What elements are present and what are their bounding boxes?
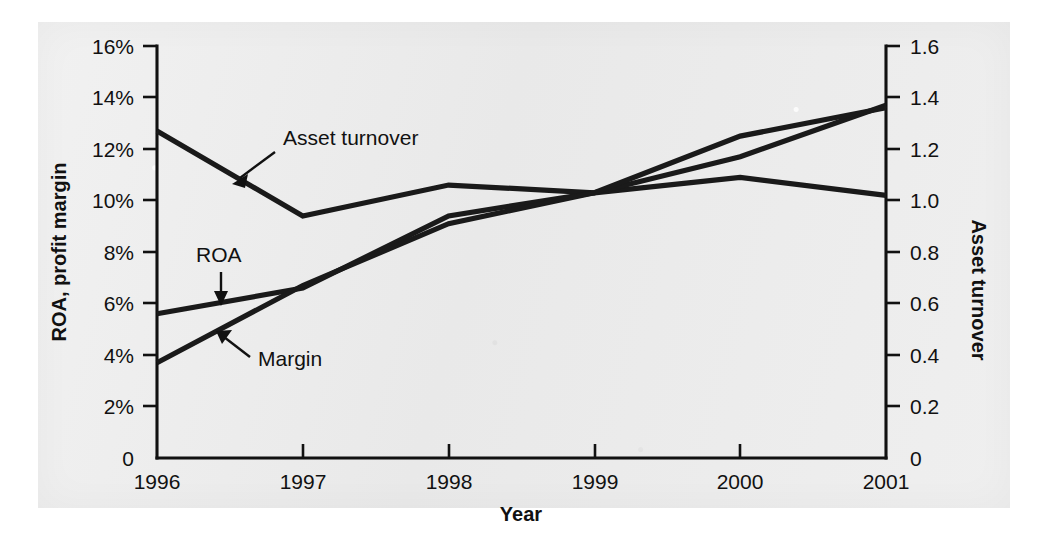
left-tick-label-6: 6% [104, 292, 134, 315]
annotation-arrow-margin [224, 337, 250, 357]
series-group [157, 105, 886, 363]
x-tick-label-2001: 2001 [863, 470, 910, 493]
annotation-asset-turnover: Asset turnover [232, 126, 418, 188]
left-tick-label-16: 16% [92, 35, 134, 58]
x-tick-label-2000: 2000 [717, 470, 764, 493]
left-tick-label-4: 4% [104, 344, 134, 367]
left-tick-label-14: 14% [92, 86, 134, 109]
annotation-roa: ROA [196, 243, 242, 306]
left-tick-label-2: 2% [104, 395, 134, 418]
x-tick-label-1998: 1998 [426, 470, 473, 493]
right-tick-label-1-4: 1.4 [910, 86, 940, 109]
right-axis: 1.6 1.4 1.2 1.0 0.8 0.6 0.4 0.2 0 Asset … [886, 35, 990, 470]
left-tick-label-0: 0 [122, 447, 134, 470]
right-tick-label-0-8: 0.8 [910, 241, 939, 264]
right-tick-label-1-0: 1.0 [910, 189, 939, 212]
annotation-margin: Margin [216, 330, 322, 370]
right-tick-label-1-6: 1.6 [910, 35, 939, 58]
chart-plot-area: 16% 14% 12% 10% 8% 6% 4% 2% 0 ROA, profi… [0, 0, 1042, 533]
x-tick-label-1997: 1997 [280, 470, 327, 493]
x-tick-label-1999: 1999 [572, 470, 619, 493]
annotation-label-roa: ROA [196, 243, 242, 266]
right-tick-label-1-2: 1.2 [910, 138, 939, 161]
right-tick-label-0-4: 0.4 [910, 344, 940, 367]
left-tick-label-10: 10% [92, 189, 134, 212]
x-axis: 1996 1997 1998 1999 2000 2001 Year [134, 444, 910, 525]
right-tick-label-0-6: 0.6 [910, 292, 939, 315]
right-tick-label-0-2: 0.2 [910, 395, 939, 418]
chart-figure: 16% 14% 12% 10% 8% 6% 4% 2% 0 ROA, profi… [0, 0, 1042, 533]
left-axis: 16% 14% 12% 10% 8% 6% 4% 2% 0 ROA, profi… [48, 35, 157, 470]
left-axis-title: ROA, profit margin [48, 163, 70, 342]
x-axis-title: Year [500, 503, 542, 525]
annotation-label-asset-turnover: Asset turnover [283, 126, 418, 149]
annotation-arrow-asset-turnover [240, 152, 275, 178]
right-tick-label-0: 0 [910, 447, 922, 470]
right-axis-title: Asset turnover [968, 219, 990, 360]
x-tick-label-1996: 1996 [134, 470, 181, 493]
left-tick-label-8: 8% [104, 241, 134, 264]
annotation-label-margin: Margin [258, 347, 322, 370]
left-tick-label-12: 12% [92, 138, 134, 161]
